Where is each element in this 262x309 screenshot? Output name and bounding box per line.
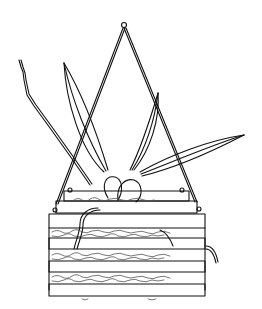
flower-spike — [19, 60, 92, 185]
hanging-wires — [56, 23, 197, 205]
orchid-basket-illustration — [0, 0, 262, 309]
leaves — [64, 63, 244, 176]
